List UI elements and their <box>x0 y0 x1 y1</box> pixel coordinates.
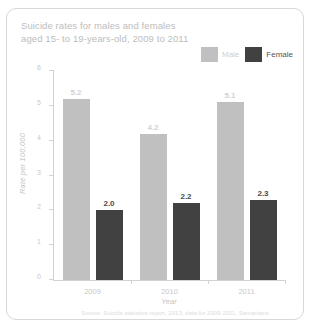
y-axis-tick-label: 1 <box>37 238 41 245</box>
plot-area-wrapper: Rate per 100,000 6543210 5.22.020094.22.… <box>7 9 305 321</box>
y-axis-tick: 2 <box>37 209 54 210</box>
bar-female-2011[interactable]: 2.3 <box>250 71 277 280</box>
x-axis-category-label: 2011 <box>238 287 254 296</box>
bar-value-label: 4.2 <box>147 123 158 132</box>
bar-value-label: 5.1 <box>224 91 235 100</box>
bar-value-label: 2.3 <box>257 189 268 198</box>
y-axis-tick-label: 3 <box>37 168 41 175</box>
bar-rect[interactable] <box>140 134 167 280</box>
y-axis-tick-label: 5 <box>37 98 41 105</box>
plot-area: 6543210 5.22.020094.22.220105.12.32011 <box>53 71 285 281</box>
x-axis-category-label: 2009 <box>84 287 101 296</box>
bar-value-label: 2.2 <box>180 192 191 201</box>
y-axis-tick: 4 <box>37 140 54 141</box>
bar-male-2011[interactable]: 5.1 <box>217 71 244 280</box>
x-axis-tick-mark <box>285 280 286 284</box>
x-axis-category-label: 2010 <box>161 287 178 296</box>
y-axis-tick: 1 <box>37 244 54 245</box>
y-axis-tick-label: 2 <box>37 203 41 210</box>
bar-rect[interactable] <box>173 203 200 280</box>
bar-group: 5.12.32011 <box>208 71 285 280</box>
bar-male-2009[interactable]: 5.2 <box>63 71 90 280</box>
x-axis-label: Year <box>53 297 285 306</box>
bar-rect[interactable] <box>96 210 123 280</box>
bar-female-2010[interactable]: 2.2 <box>173 71 200 280</box>
bar-rect[interactable] <box>250 200 277 280</box>
bar-female-2009[interactable]: 2.0 <box>96 71 123 280</box>
bar-group: 4.22.22010 <box>131 71 208 280</box>
bar-value-label: 5.2 <box>70 88 81 97</box>
bar-groups: 5.22.020094.22.220105.12.32011 <box>54 71 285 280</box>
bar-male-2010[interactable]: 4.2 <box>140 71 167 280</box>
y-axis-tick-label: 0 <box>37 273 41 280</box>
y-axis-tick: 3 <box>37 175 54 176</box>
source-note: Source: Suicide statistics report, 2013,… <box>53 310 297 316</box>
chart-card: Suicide rates for males and females aged… <box>6 8 304 320</box>
bar-group: 5.22.02009 <box>54 71 131 280</box>
bar-rect[interactable] <box>217 102 244 280</box>
y-axis-tick-label: 6 <box>37 64 41 71</box>
bar-rect[interactable] <box>63 99 90 280</box>
x-axis-tick-mark <box>131 280 132 284</box>
y-axis-tick-label: 4 <box>37 133 41 140</box>
y-axis-label: Rate per 100,000 <box>18 116 27 212</box>
y-axis-tick: 0 <box>37 279 54 280</box>
y-axis-tick: 6 <box>37 70 54 71</box>
x-axis-tick-mark <box>208 280 209 284</box>
y-axis-tick: 5 <box>37 105 54 106</box>
bar-value-label: 2.0 <box>103 199 114 208</box>
